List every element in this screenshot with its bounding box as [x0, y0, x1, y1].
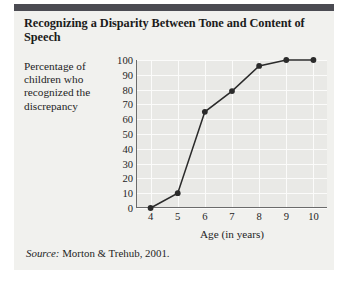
x-axis-tick-label: 10 [308, 211, 319, 222]
data-series [137, 60, 327, 208]
source-citation: Source: Morton & Trehub, 2001. [26, 247, 170, 259]
data-point-marker [229, 88, 235, 94]
x-axis-tick-label: 4 [148, 211, 153, 222]
accent-bar [14, 4, 334, 11]
y-axis-tick-label: 60 [122, 114, 136, 125]
series-line [151, 60, 314, 208]
y-axis-tick-label: 40 [122, 143, 136, 154]
x-axis-title: Age (in years) [137, 228, 327, 240]
source-text: Morton & Trehub, 2001. [59, 247, 169, 259]
data-point-marker [256, 63, 262, 69]
data-point-marker [175, 190, 181, 196]
y-axis-tick-label: 0 [128, 203, 136, 214]
figure-panel: Recognizing a Disparity Between Tone and… [14, 4, 334, 270]
x-axis-tick-label: 5 [175, 211, 180, 222]
y-axis-tick-label: 80 [122, 84, 136, 95]
y-axis-tick-label: 90 [122, 69, 136, 80]
y-axis-tick-label: 100 [117, 55, 136, 66]
x-axis-tick-label: 8 [256, 211, 261, 222]
y-axis-label: Percentage of children who recognized th… [24, 60, 110, 113]
x-axis-tick-label: 6 [202, 211, 207, 222]
y-axis-tick-label: 70 [122, 99, 136, 110]
source-prefix: Source: [26, 247, 59, 259]
y-axis-tick-label: 50 [122, 129, 136, 140]
plot-container: 0102030405060708090100 45678910 Age (in … [119, 56, 327, 216]
data-point-marker [202, 109, 208, 115]
data-point-marker [311, 57, 317, 63]
data-point-marker [148, 205, 154, 211]
data-point-marker [283, 57, 289, 63]
figure-title: Recognizing a Disparity Between Tone and… [24, 16, 320, 44]
x-axis-tick-label: 7 [229, 211, 234, 222]
y-axis-tick-label: 30 [122, 158, 136, 169]
y-axis-tick-label: 10 [122, 188, 136, 199]
x-axis-tick-label: 9 [284, 211, 289, 222]
y-axis-tick-label: 20 [122, 173, 136, 184]
